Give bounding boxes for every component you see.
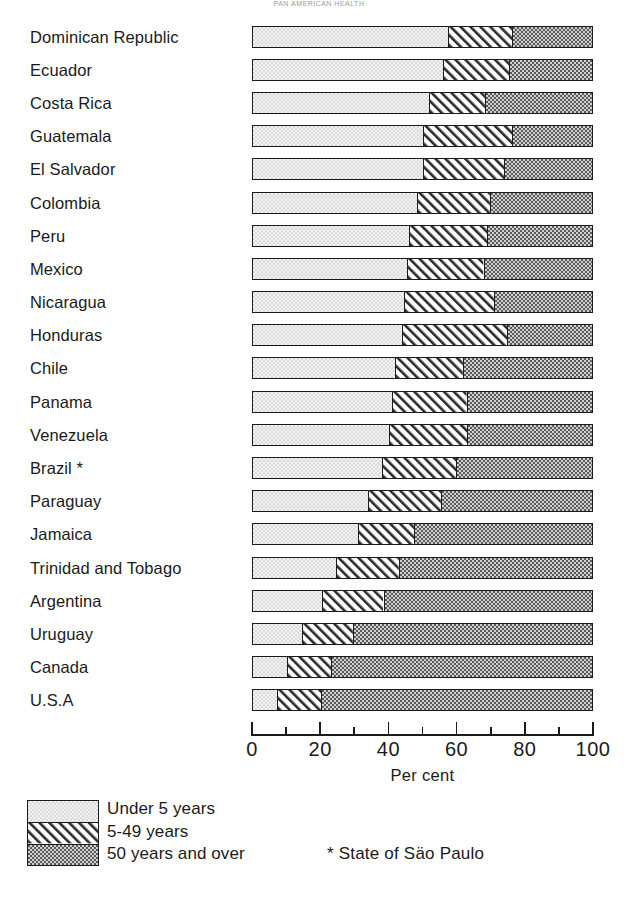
bar-segment-pattern [253, 226, 409, 246]
bar-segment-pattern [253, 392, 392, 412]
bar-segment-pattern [385, 591, 592, 611]
bar-segment [402, 325, 507, 345]
bar-segment-pattern [424, 126, 513, 146]
axis-tick-major [251, 722, 253, 736]
bar-segment [253, 126, 423, 146]
bar-row: Mexico [0, 252, 638, 285]
bar-segment-pattern [486, 93, 592, 113]
bar-segment [253, 458, 382, 478]
bar-segment [253, 524, 358, 544]
bar-segment [321, 690, 592, 710]
bar-segment [409, 226, 487, 246]
bar-row-label: El Salvador [0, 160, 238, 179]
bar-segment [467, 392, 592, 412]
stacked-bar [252, 291, 593, 313]
legend: Under 5 years 5-49 years 50 years and ov… [27, 800, 627, 880]
bar-segment-pattern [408, 259, 483, 279]
bar-segment [358, 524, 414, 544]
bar-segment [277, 690, 321, 710]
stacked-bar [252, 324, 593, 346]
axis-tick-minor [285, 727, 287, 736]
bar-row-label: Ecuador [0, 60, 238, 79]
bar-segment [484, 259, 592, 279]
axis-tick-minor [422, 727, 424, 736]
bar-segment [253, 325, 402, 345]
bar-segment [253, 159, 423, 179]
bar-segment [253, 425, 389, 445]
bar-row: Argentina [0, 584, 638, 617]
bar-segment-pattern [253, 93, 429, 113]
bar-segment-pattern [418, 193, 490, 213]
bar-row: Paraguay [0, 485, 638, 518]
bar-row-label: Paraguay [0, 492, 238, 511]
x-axis-tick-labels: 020406080100 [252, 738, 593, 764]
bar-segment [485, 93, 592, 113]
bar-segment [504, 159, 592, 179]
bar-segment-pattern [253, 491, 368, 511]
bar-segment-pattern [468, 425, 592, 445]
bar-segment [441, 491, 592, 511]
bar-segment [384, 591, 592, 611]
bar-segment [253, 392, 392, 412]
bar-row-label: Nicaragua [0, 293, 238, 312]
axis-tick-minor [353, 727, 355, 736]
bar-segment [487, 226, 592, 246]
bar-row-label: Jamaica [0, 525, 238, 544]
bar-segment-pattern [253, 558, 336, 578]
stacked-bar [252, 656, 593, 678]
bar-segment [509, 60, 592, 80]
bar-segment [467, 425, 592, 445]
bar-segment-pattern [253, 591, 322, 611]
bar-segment [414, 524, 592, 544]
bar-row-label: Mexico [0, 259, 238, 278]
bar-segment-pattern [442, 491, 592, 511]
bar-segment [382, 458, 457, 478]
bar-row-label: Chile [0, 359, 238, 378]
legend-swatch-pattern [28, 845, 98, 865]
bar-segment-pattern [495, 292, 592, 312]
bar-segment [507, 325, 592, 345]
bar-segment [512, 126, 592, 146]
bar-segment [389, 425, 467, 445]
bar-segment [253, 27, 448, 47]
bar-segment [404, 292, 494, 312]
bar-row: Costa Rica [0, 86, 638, 119]
bar-segment-pattern [444, 60, 509, 80]
bar-segment [490, 193, 592, 213]
bar-segment-pattern [369, 491, 441, 511]
bar-segment-pattern [253, 60, 443, 80]
bar-segment-pattern [508, 325, 592, 345]
bar-segment-pattern [449, 27, 512, 47]
bar-segment [253, 591, 322, 611]
bar-segment-pattern [513, 27, 592, 47]
bar-segment-pattern [253, 126, 423, 146]
bar-row: Honduras [0, 319, 638, 352]
bar-row: Chile [0, 352, 638, 385]
bar-row-label: Argentina [0, 591, 238, 610]
bar-segment-pattern [253, 27, 448, 47]
bar-row: Canada [0, 651, 638, 684]
bar-segment [253, 259, 407, 279]
axis-tick-major [388, 722, 390, 736]
axis-tick-major [592, 722, 594, 736]
bar-segment [423, 126, 513, 146]
bar-segment [336, 558, 399, 578]
bar-segment-pattern [491, 193, 592, 213]
stacked-bar [252, 490, 593, 512]
bar-row: Panama [0, 385, 638, 418]
bar-segment-pattern [513, 126, 592, 146]
axis-tick-minor [558, 727, 560, 736]
axis-tick-label: 0 [246, 738, 258, 761]
axis-tick-major [456, 722, 458, 736]
bar-segment-pattern [337, 558, 399, 578]
bar-row-label: Trinidad and Tobago [0, 558, 238, 577]
bar-segment-pattern [430, 93, 485, 113]
bar-segment-pattern [505, 159, 592, 179]
bar-segment [253, 358, 395, 378]
stacked-bar [252, 689, 593, 711]
bar-row-label: Honduras [0, 326, 238, 345]
axis-tick-label: 20 [309, 738, 332, 761]
bar-segment-pattern [253, 292, 404, 312]
bar-row-label: Panama [0, 392, 238, 411]
bar-segment [302, 624, 353, 644]
